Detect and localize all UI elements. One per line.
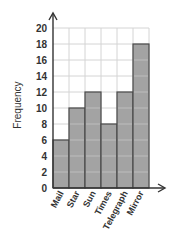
y-tick-label: 8 bbox=[41, 119, 47, 130]
y-tick-label: 4 bbox=[41, 151, 47, 162]
y-tick-label: 18 bbox=[36, 39, 48, 50]
bar-mirror bbox=[133, 44, 149, 188]
bar-chart: 02468101214161820 MailStarSunTimesTelegr… bbox=[0, 0, 175, 237]
y-axis-label: Frequency bbox=[12, 81, 23, 128]
x-category-label: Mail bbox=[49, 189, 66, 209]
bar-mail bbox=[53, 140, 69, 188]
x-category-labels: MailStarSunTimesTelegraphMirror bbox=[49, 189, 146, 232]
x-category-label: Star bbox=[65, 189, 82, 210]
y-tick-label: 12 bbox=[36, 87, 48, 98]
y-tick-label: 2 bbox=[41, 167, 47, 178]
y-tick-label: 0 bbox=[41, 183, 47, 194]
y-tick-label: 16 bbox=[36, 55, 48, 66]
y-tick-label: 20 bbox=[36, 23, 48, 34]
y-tick-label: 14 bbox=[36, 71, 48, 82]
y-tick-labels: 02468101214161820 bbox=[36, 23, 48, 194]
bar-star bbox=[69, 108, 85, 188]
y-tick-label: 6 bbox=[41, 135, 47, 146]
y-tick-label: 10 bbox=[36, 103, 48, 114]
